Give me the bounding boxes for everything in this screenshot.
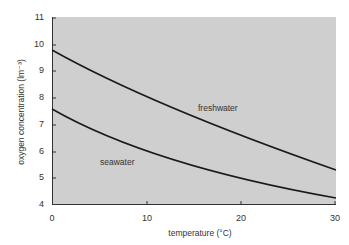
seawater-curve xyxy=(52,109,336,198)
y-axis-label: oxygen concentration (lm⁻³) xyxy=(16,47,26,177)
ytick: 9 xyxy=(24,65,44,75)
ytick: 5 xyxy=(24,172,44,182)
ytick: 7 xyxy=(24,119,44,129)
ytick: 4 xyxy=(24,199,44,209)
ytick: 10 xyxy=(24,39,44,49)
ytick: 8 xyxy=(24,92,44,102)
x-axis-label: temperature (°C) xyxy=(140,228,260,238)
seawater-label: seawater xyxy=(100,157,135,167)
xtick: 0 xyxy=(37,213,67,223)
freshwater-label: freshwater xyxy=(198,103,238,113)
xtick: 30 xyxy=(320,213,349,223)
ytick: 11 xyxy=(24,12,44,22)
xtick: 20 xyxy=(226,213,256,223)
curves xyxy=(0,0,349,245)
xtick: 10 xyxy=(132,213,162,223)
ytick: 6 xyxy=(24,146,44,156)
freshwater-curve xyxy=(52,50,336,170)
